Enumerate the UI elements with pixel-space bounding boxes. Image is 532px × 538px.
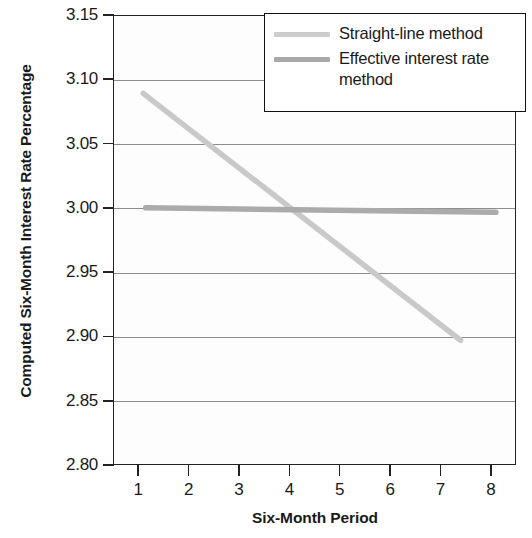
x-axis-tick-label: 8 bbox=[471, 480, 511, 499]
y-axis-tick bbox=[103, 336, 114, 338]
series-line bbox=[146, 208, 496, 213]
x-axis-tick bbox=[238, 465, 240, 476]
legend-item: Straight-line method bbox=[265, 23, 525, 44]
x-axis-tick bbox=[188, 465, 190, 476]
x-axis-tick-label: 5 bbox=[320, 480, 360, 499]
chart-figure: Computed Six-Month Interest Rate Percent… bbox=[0, 0, 532, 538]
x-axis-tick-label: 2 bbox=[169, 480, 209, 499]
x-axis-tick bbox=[289, 465, 291, 476]
y-axis-tick-label: 3.00 bbox=[22, 199, 98, 216]
legend-swatch-straight-line bbox=[265, 23, 339, 37]
x-axis-tick-label: 6 bbox=[370, 480, 410, 499]
y-axis-tick-label: 2.90 bbox=[22, 327, 98, 344]
legend-item: Effective interest rate method bbox=[265, 48, 525, 90]
x-axis-title: Six-Month Period bbox=[113, 509, 517, 527]
x-axis-tick bbox=[137, 465, 139, 476]
y-axis-tick-label: 3.05 bbox=[22, 135, 98, 152]
series-line bbox=[143, 93, 460, 340]
y-axis-tick-label: 2.95 bbox=[22, 263, 98, 280]
y-axis-tick bbox=[103, 207, 114, 209]
y-axis-tick-label: 3.15 bbox=[22, 6, 98, 23]
y-axis-tick bbox=[103, 14, 114, 16]
y-axis-tick bbox=[103, 271, 114, 273]
x-axis-tick bbox=[490, 465, 492, 476]
x-axis-tick-label: 3 bbox=[219, 480, 259, 499]
x-axis-tick bbox=[339, 465, 341, 476]
y-axis-tick bbox=[103, 400, 114, 402]
y-axis-tick bbox=[103, 464, 114, 466]
y-axis-tick bbox=[103, 78, 114, 80]
x-axis-tick-label: 1 bbox=[118, 480, 158, 499]
x-axis-tick bbox=[389, 465, 391, 476]
y-axis-tick-label: 2.80 bbox=[22, 456, 98, 473]
y-axis-tick-label: 2.85 bbox=[22, 392, 98, 409]
legend-label-effective-interest: Effective interest rate method bbox=[339, 48, 525, 90]
x-axis-tick-label: 4 bbox=[269, 480, 309, 499]
legend-label-straight-line: Straight-line method bbox=[339, 23, 489, 44]
legend-swatch-effective-interest bbox=[265, 48, 339, 62]
x-axis-tick-label: 7 bbox=[420, 480, 460, 499]
x-axis-tick bbox=[440, 465, 442, 476]
chart-legend: Straight-line method Effective interest … bbox=[264, 13, 526, 112]
y-axis-tick bbox=[103, 143, 114, 145]
y-axis-tick-label: 3.10 bbox=[22, 70, 98, 87]
